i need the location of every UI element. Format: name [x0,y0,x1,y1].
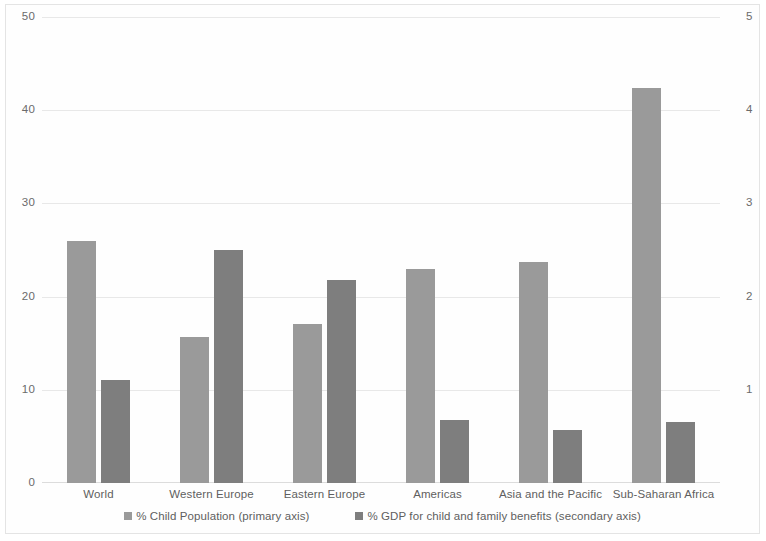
bar-secondary[interactable] [101,380,130,483]
y-axis-left-tick-30: 30 [22,196,35,208]
x-axis-tick: Asia and the Pacific [494,485,607,509]
x-axis-tick: Western Europe [155,485,268,509]
y-axis-right-tick-2: 2 [746,290,753,302]
y-axis-right-tick-1: 1 [746,383,753,395]
y-axis-left-tick-50: 50 [22,10,35,22]
x-axis-tick-label: Eastern Europe [268,488,381,500]
y-axis-left-tick-40: 40 [22,103,35,115]
x-axis-labels: WorldWestern EuropeEastern EuropeAmerica… [42,485,720,509]
legend-item[interactable]: % GDP for child and family benefits (sec… [355,510,640,522]
x-axis-tick: World [42,485,155,509]
bar-primary[interactable] [406,269,435,483]
x-axis-tick-label: Sub-Saharan Africa [607,488,720,500]
bar-secondary[interactable] [214,250,243,483]
y-axis-right-tick-5: 5 [746,10,753,22]
x-axis-tick: Sub-Saharan Africa [607,485,720,509]
x-axis-tick-label: Americas [381,488,494,500]
y-axis-right-tick-3: 3 [746,196,753,208]
bar-secondary[interactable] [327,280,356,483]
bar-secondary[interactable] [666,422,695,484]
bar-secondary[interactable] [440,420,469,483]
legend-label: % GDP for child and family benefits (sec… [367,510,640,522]
chart-container: 50 40 30 20 10 0 5 4 3 2 1 WorldWestern … [5,4,760,534]
bar-groups [42,17,720,483]
x-axis-tick-label: World [42,488,155,500]
bar-primary[interactable] [293,324,322,483]
legend-swatch-icon [124,512,132,520]
bar-group [155,17,268,483]
y-axis-left-tick-20: 20 [22,290,35,302]
x-axis-tick-label: Western Europe [155,488,268,500]
bar-primary[interactable] [67,241,96,483]
x-axis-tick: Eastern Europe [268,485,381,509]
y-axis-left-tick-0: 0 [28,476,35,488]
bar-primary[interactable] [519,262,548,483]
legend-item[interactable]: % Child Population (primary axis) [124,510,309,522]
y-axis-left-tick-10: 10 [22,383,35,395]
bar-secondary[interactable] [553,430,582,483]
bar-primary[interactable] [632,88,661,483]
plot-area: 50 40 30 20 10 0 5 4 3 2 1 [42,17,720,483]
legend-swatch-icon [355,512,363,520]
bar-group [268,17,381,483]
bar-primary[interactable] [180,337,209,483]
bar-group [381,17,494,483]
bar-group [607,17,720,483]
bar-group [42,17,155,483]
y-axis-right-tick-4: 4 [746,103,753,115]
bar-group [494,17,607,483]
x-axis-tick: Americas [381,485,494,509]
x-axis-tick-label: Asia and the Pacific [494,488,607,500]
chart-legend: % Child Population (primary axis)% GDP f… [6,510,759,522]
legend-label: % Child Population (primary axis) [136,510,309,522]
